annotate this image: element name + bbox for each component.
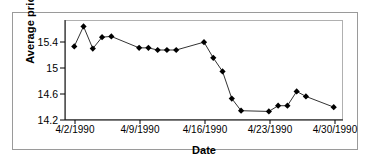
- data-point: [331, 104, 337, 110]
- data-point: [266, 108, 272, 114]
- data-point: [275, 103, 281, 109]
- data-point: [210, 55, 216, 61]
- data-point: [155, 47, 161, 53]
- y-axis-ticks: [60, 42, 65, 120]
- data-point: [201, 39, 207, 45]
- chart-area: Average price Date 15.4 15 14.6 14.2 4/2…: [0, 0, 372, 164]
- data-point: [173, 47, 179, 53]
- series-markers-average-price: [71, 23, 337, 114]
- x-axis-ticks: [75, 120, 335, 124]
- data-point: [145, 45, 151, 51]
- data-point: [164, 47, 170, 53]
- data-point: [108, 33, 114, 39]
- data-point: [284, 103, 290, 109]
- data-point: [80, 23, 86, 29]
- plot-svg: [0, 0, 372, 164]
- data-point: [294, 88, 300, 94]
- data-point: [136, 45, 142, 51]
- data-point: [71, 43, 77, 49]
- data-point: [303, 93, 309, 99]
- chart-figure: Average price Date 15.4 15 14.6 14.2 4/2…: [0, 0, 372, 164]
- data-point: [219, 68, 225, 74]
